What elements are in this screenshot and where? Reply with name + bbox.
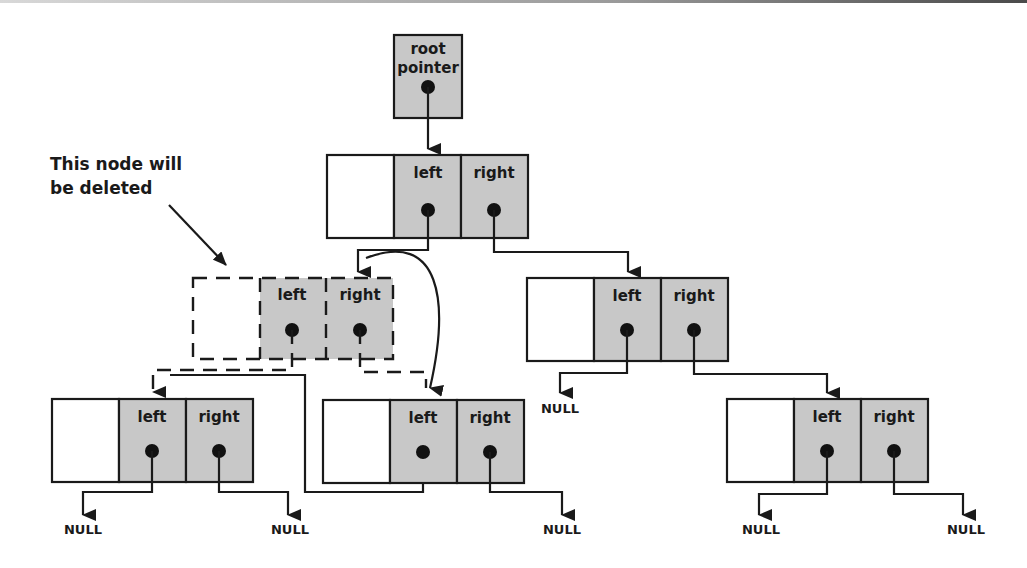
data-cell	[323, 400, 390, 483]
data-cell	[52, 399, 119, 482]
null-label: NULL	[947, 522, 985, 537]
annotation-line2: be deleted	[50, 178, 153, 198]
data-cell	[327, 155, 394, 238]
root-label-line1: root	[410, 40, 445, 58]
right-label: right	[198, 408, 239, 426]
node-bottom-mid: left right	[323, 400, 524, 483]
left-label: left	[413, 164, 442, 182]
left-label: left	[812, 408, 841, 426]
node-deleted: left right	[193, 278, 393, 359]
annotation-arrow	[169, 205, 226, 265]
null-label: NULL	[64, 522, 102, 537]
left-label: left	[277, 286, 306, 304]
left-label: left	[137, 408, 166, 426]
right-label: right	[473, 164, 514, 182]
annotation-line1: This node will	[50, 154, 182, 174]
null-label: NULL	[543, 522, 581, 537]
pointer-dot-icon	[416, 445, 430, 459]
null-label: NULL	[271, 522, 309, 537]
right-label: right	[673, 287, 714, 305]
binary-tree-deletion-diagram: root pointer left right This node will b…	[0, 0, 1027, 568]
right-label: right	[339, 286, 380, 304]
right-label: right	[469, 409, 510, 427]
data-cell	[727, 399, 794, 482]
null-label: NULL	[742, 522, 780, 537]
left-label: left	[612, 287, 641, 305]
null-label: NULL	[541, 401, 579, 416]
data-cell	[527, 278, 594, 361]
left-label: left	[408, 409, 437, 427]
root-label-line2: pointer	[397, 59, 459, 77]
right-label: right	[873, 408, 914, 426]
